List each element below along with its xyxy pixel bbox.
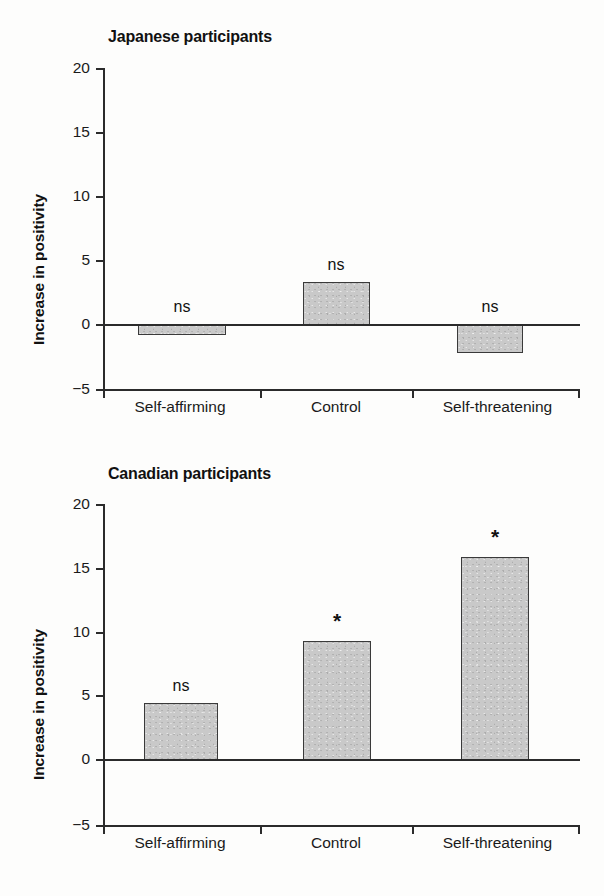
y-tick-10-japanese	[96, 196, 104, 198]
y-tick-15-canadian	[96, 568, 104, 570]
y-tick-label-15-canadian: 15	[36, 559, 90, 577]
x-tick-sep1-japanese	[260, 389, 262, 398]
bar-japanese-self-threatening	[457, 324, 523, 353]
x-tick-sep1-canadian	[260, 825, 262, 834]
x-tick-sep2-canadian	[412, 825, 414, 834]
x-tick-sep2-japanese	[412, 389, 414, 398]
plot-area-canadian: 20 15 10 5 0 −5 ns * * Self-affirming Co…	[0, 450, 604, 896]
x-tick-label-self-affirming-japanese: Self-affirming	[110, 398, 250, 416]
y-tick-15-japanese	[96, 132, 104, 134]
x-tick-label-self-threatening-japanese: Self-threatening	[415, 398, 580, 416]
bar-canadian-control	[303, 641, 371, 760]
y-tick-5-canadian	[96, 695, 104, 697]
y-tick-20-japanese	[96, 68, 104, 70]
figure-page: Japanese participants Increase in positi…	[0, 0, 604, 896]
y-tick-label-0-japanese: 0	[36, 315, 90, 333]
x-tick-left-japanese	[103, 389, 105, 398]
chart-panel-japanese: Japanese participants Increase in positi…	[0, 0, 604, 450]
chart-panel-canadian: Canadian participants Increase in positi…	[0, 450, 604, 896]
y-tick-label-minus5-japanese: −5	[30, 380, 90, 398]
significance-canadian-control: *	[297, 610, 377, 631]
x-axis-line-japanese	[103, 389, 580, 391]
significance-canadian-self-affirming: ns	[141, 678, 221, 694]
x-tick-right-japanese	[578, 389, 580, 398]
x-tick-label-self-threatening-canadian: Self-threatening	[415, 834, 580, 852]
y-tick-label-20-japanese: 20	[36, 59, 90, 77]
bar-japanese-control	[303, 282, 370, 325]
bar-canadian-self-threatening	[461, 557, 529, 760]
x-tick-label-control-japanese: Control	[268, 398, 404, 416]
y-tick-label-10-japanese: 10	[36, 187, 90, 205]
bar-canadian-self-affirming	[144, 703, 218, 760]
x-tick-left-canadian	[103, 825, 105, 834]
y-tick-label-0-canadian: 0	[36, 750, 90, 768]
significance-canadian-self-threatening: *	[455, 526, 535, 547]
bar-japanese-self-affirming	[138, 324, 226, 335]
y-tick-5-japanese	[96, 260, 104, 262]
y-tick-label-5-japanese: 5	[36, 251, 90, 269]
y-tick-label-20-canadian: 20	[36, 495, 90, 513]
plot-area-japanese: 20 15 10 5 0 −5 ns ns ns	[0, 0, 604, 450]
y-axis-line-japanese	[103, 68, 105, 390]
significance-japanese-control: ns	[296, 257, 376, 273]
y-tick-label-15-japanese: 15	[36, 123, 90, 141]
x-tick-label-control-canadian: Control	[268, 834, 404, 852]
significance-japanese-self-threatening: ns	[450, 299, 530, 315]
x-tick-label-self-affirming-canadian: Self-affirming	[110, 834, 250, 852]
y-tick-20-canadian	[96, 504, 104, 506]
y-tick-10-canadian	[96, 632, 104, 634]
x-tick-right-canadian	[578, 825, 580, 834]
significance-japanese-self-affirming: ns	[142, 299, 222, 315]
y-tick-label-minus5-canadian: −5	[30, 816, 90, 834]
zero-line-japanese	[103, 324, 580, 326]
zero-line-canadian	[103, 759, 580, 761]
y-tick-label-5-canadian: 5	[36, 686, 90, 704]
y-tick-label-10-canadian: 10	[36, 623, 90, 641]
y-axis-line-canadian	[103, 504, 105, 826]
x-axis-line-canadian	[103, 825, 580, 827]
